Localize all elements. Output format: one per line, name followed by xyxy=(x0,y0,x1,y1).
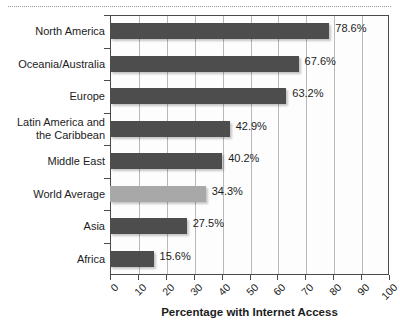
bar[interactable] xyxy=(110,56,299,72)
category-label: Africa xyxy=(0,243,105,276)
value-axis-tick xyxy=(194,275,195,280)
bar-row: 34.3% xyxy=(110,178,389,211)
value-axis-tick xyxy=(250,275,251,280)
category-label: North America xyxy=(0,15,105,48)
category-label: Asia xyxy=(0,210,105,243)
bar-row: 27.5% xyxy=(110,210,389,243)
value-axis-tick xyxy=(389,275,390,280)
bars-layer: 78.6%67.6%63.2%42.9%40.2%34.3%27.5%15.6% xyxy=(110,15,389,275)
bar[interactable] xyxy=(110,218,187,234)
bar-value-label: 40.2% xyxy=(222,152,259,164)
category-label: Europe xyxy=(0,80,105,113)
bar[interactable] xyxy=(110,23,329,39)
bar-value-label: 78.6% xyxy=(329,22,366,34)
bar-row: 42.9% xyxy=(110,113,389,146)
bar[interactable] xyxy=(110,88,286,104)
bar-row: 15.6% xyxy=(110,243,389,276)
category-axis-labels: North AmericaOceania/AustraliaEuropeLati… xyxy=(0,15,105,275)
bar-value-label: 34.3% xyxy=(206,185,243,197)
category-label: Middle East xyxy=(0,145,105,178)
value-axis-tick xyxy=(361,275,362,280)
bar-value-label: 15.6% xyxy=(154,250,191,262)
bar[interactable] xyxy=(110,186,206,202)
bar-row: 40.2% xyxy=(110,145,389,178)
value-axis-tick xyxy=(166,275,167,280)
value-axis-tick xyxy=(305,275,306,280)
bar[interactable] xyxy=(110,121,230,137)
title-divider-rule xyxy=(8,6,392,7)
bar-row: 63.2% xyxy=(110,80,389,113)
value-axis-tick xyxy=(222,275,223,280)
value-axis-tick xyxy=(333,275,334,280)
category-label: Latin America andthe Caribbean xyxy=(0,113,105,146)
x-axis-title: Percentage with Internet Access xyxy=(110,306,389,318)
bar-value-label: 42.9% xyxy=(230,120,267,132)
bar-value-label: 63.2% xyxy=(286,87,323,99)
value-axis-tick xyxy=(277,275,278,280)
category-label: World Average xyxy=(0,178,105,211)
bar-value-label: 27.5% xyxy=(187,217,224,229)
category-label: Oceania/Australia xyxy=(0,48,105,81)
bar[interactable] xyxy=(110,251,154,267)
bar[interactable] xyxy=(110,153,222,169)
value-axis-tick xyxy=(138,275,139,280)
bar-row: 78.6% xyxy=(110,15,389,48)
value-axis-tick xyxy=(110,275,111,280)
value-axis-tick-labels: 0102030405060708090100 xyxy=(110,281,389,307)
bar-row: 67.6% xyxy=(110,48,389,81)
bar-chart: North AmericaOceania/AustraliaEuropeLati… xyxy=(0,0,400,323)
bar-value-label: 67.6% xyxy=(299,55,336,67)
